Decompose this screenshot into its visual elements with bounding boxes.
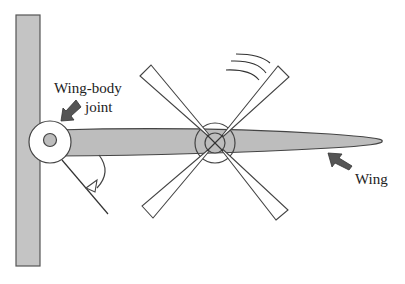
joint-arrow-icon: [61, 100, 81, 121]
angle-arc: [97, 155, 105, 188]
rotor-blade-lower-right: [216, 143, 288, 220]
wing-body-diagram: Wing-body joint Wing: [0, 0, 405, 284]
wing-arrow-icon: [328, 153, 352, 170]
joint-pin: [44, 134, 57, 147]
wing-label: Wing: [355, 171, 388, 187]
joint-label-line2: joint: [84, 99, 113, 115]
angle-line: [62, 160, 108, 214]
joint-label-line1: Wing-body: [54, 80, 122, 96]
motion-arcs-icon: [226, 54, 270, 80]
